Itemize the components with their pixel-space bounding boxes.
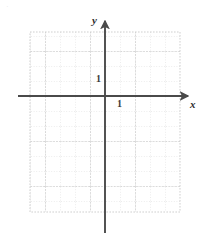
x-axis-tick-label-one: 1 [117, 99, 122, 109]
coordinate-grid-figure: · y x 1 1 [0, 0, 206, 242]
y-axis-tick-label-one: 1 [96, 74, 101, 84]
x-axis-label: x [190, 99, 196, 110]
plot-canvas [0, 0, 206, 242]
y-axis-label: y [92, 15, 97, 26]
